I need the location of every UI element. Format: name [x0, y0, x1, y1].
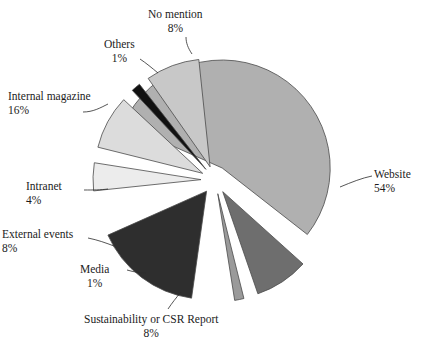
pie-slice: [108, 191, 207, 298]
slice-label-name: Intranet: [26, 180, 62, 192]
slice-label-name: Sustainability or CSR Report: [84, 313, 219, 325]
slice-label-value: 8%: [148, 22, 203, 36]
slice-label: No mention8%: [148, 8, 203, 35]
slice-label: Others1%: [104, 38, 135, 65]
leader-line: [186, 37, 192, 54]
slice-label: Internal magazine16%: [8, 90, 91, 117]
slice-label: External events8%: [2, 228, 73, 255]
slice-label-name: External events: [2, 228, 73, 240]
slice-label-value: 54%: [374, 182, 411, 196]
leader-line: [140, 59, 158, 73]
slice-label-name: No mention: [148, 8, 203, 20]
slice-label-value: 1%: [80, 277, 109, 291]
slice-label-name: Media: [80, 263, 109, 275]
pie-chart-canvas: [0, 0, 429, 348]
slice-label-value: 8%: [84, 327, 219, 341]
slice-label-name: Internal magazine: [8, 90, 91, 102]
slice-label: Intranet4%: [26, 180, 62, 207]
slice-label-value: 4%: [26, 194, 62, 208]
slice-label: Website54%: [374, 168, 411, 195]
leader-line: [340, 176, 372, 187]
slice-label-value: 16%: [8, 104, 91, 118]
slice-label: Sustainability or CSR Report8%: [84, 313, 219, 340]
slice-label-name: Website: [374, 168, 411, 180]
pie-chart-figure: Website54%Internal magazine16%No mention…: [0, 0, 429, 348]
pie-wedges-group: [93, 59, 330, 300]
slice-label-value: 1%: [104, 52, 135, 66]
slice-label: Media1%: [80, 263, 109, 290]
slice-label-name: Others: [104, 38, 135, 50]
slice-label-value: 8%: [2, 242, 73, 256]
